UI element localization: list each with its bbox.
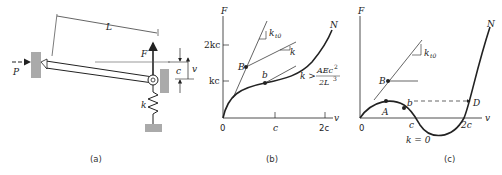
- x-tick-2c: 2c: [319, 123, 329, 133]
- slope-k-label: k: [290, 47, 295, 57]
- point-b-c: [402, 106, 406, 110]
- point-b-label: b: [262, 70, 268, 80]
- length-label: L: [105, 22, 112, 32]
- y-tick-kc: kc: [209, 76, 220, 86]
- x-tick-c-c: c: [409, 120, 414, 130]
- x-axis-label-c: v: [485, 113, 490, 123]
- point-A-label: A: [381, 107, 389, 117]
- beam: [46, 61, 153, 83]
- kt0-label-c: k: [424, 48, 429, 58]
- y-axis-label-c: F: [357, 6, 365, 16]
- x-tick-c: c: [273, 123, 278, 133]
- caption-a: (a): [90, 154, 102, 164]
- curve-label-n-c: N: [486, 19, 496, 29]
- panel-b: F v 2kc kc 0 c 2c N k t0 k B b k > AEc 2…: [204, 6, 340, 164]
- force-label: F: [140, 49, 148, 59]
- svg-text:2: 2: [334, 63, 338, 70]
- point-B-c: [386, 79, 390, 83]
- caption-b: (b): [266, 154, 278, 164]
- point-B-label: B: [237, 62, 245, 72]
- right-wall-guide: [160, 69, 169, 93]
- point-b-label-c: b: [407, 98, 413, 108]
- point-D-label: D: [472, 98, 480, 108]
- x-axis-label: v: [334, 113, 339, 123]
- svg-text:t0: t0: [430, 52, 436, 59]
- pin-left-icon: [41, 59, 47, 69]
- y-tick-2kc: 2kc: [204, 40, 220, 50]
- svg-text:3: 3: [333, 75, 337, 82]
- kt0-label: k: [269, 28, 274, 38]
- panel-a: P L F k c v (a): [12, 14, 197, 164]
- point-B-label-c: B: [378, 76, 386, 86]
- tangent-k: [246, 42, 296, 67]
- condition-lhs: k >: [300, 71, 316, 81]
- x-tick-0-c: 0: [359, 123, 364, 133]
- panel-c: F v 0 c 2c N k t0 B A b D k = 0 (c): [357, 6, 496, 164]
- condition-numerator: AEc: [316, 66, 334, 75]
- left-wall-support: [31, 52, 41, 78]
- x-tick-0: 0: [220, 123, 225, 133]
- point-A: [384, 99, 388, 103]
- svg-text:t0: t0: [275, 32, 281, 39]
- point-b: [263, 81, 267, 85]
- load-p-label: P: [12, 67, 20, 77]
- caption-c: (c): [444, 154, 455, 164]
- tangent-kt0-c: [374, 40, 422, 100]
- condition-k-zero: k = 0: [406, 135, 431, 145]
- y-axis-label: F: [220, 6, 228, 16]
- spring-icon: [148, 85, 158, 124]
- spring-label: k: [141, 100, 146, 110]
- curve-label-n: N: [329, 20, 339, 30]
- gap-label: c: [176, 66, 181, 76]
- condition-denominator: 2L: [318, 78, 329, 87]
- displacement-label: v: [192, 64, 197, 74]
- figure: P L F k c v (a) F v 2kc: [0, 0, 502, 175]
- ground-support: [145, 124, 162, 132]
